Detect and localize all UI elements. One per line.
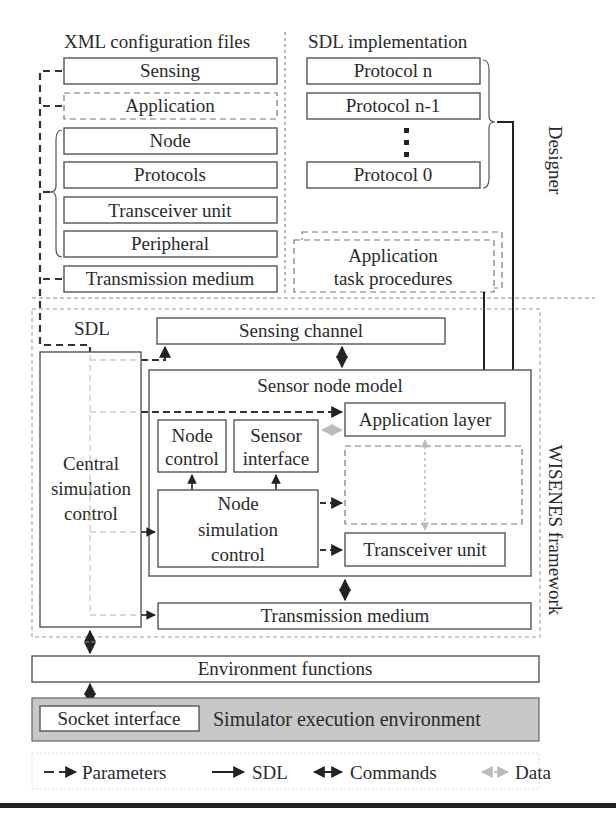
sdl-section-title: SDL implementation	[308, 31, 468, 52]
svg-text:Environment functions: Environment functions	[198, 658, 373, 679]
sensing-channel: Sensing channel	[157, 318, 445, 344]
svg-text:Node: Node	[149, 130, 190, 151]
simulator-execution-environment: Socket interface Simulator execution env…	[32, 698, 539, 741]
ellipsis-icon	[404, 128, 409, 157]
brace-icon	[50, 130, 62, 257]
svg-text:Protocol n: Protocol n	[354, 60, 433, 81]
legend: Parameters SDL Commands Data	[32, 753, 551, 789]
svg-text:control: control	[165, 448, 219, 469]
socket-interface: Socket interface	[58, 708, 181, 729]
node-simulation-control: Node simulation control	[158, 490, 318, 567]
svg-text:Transmission medium: Transmission medium	[86, 268, 255, 289]
framework-label: WISENES framework	[545, 445, 566, 616]
svg-text:Sensor: Sensor	[250, 425, 302, 446]
application-task-procedures: Application task procedures	[294, 232, 502, 292]
svg-text:Sensing: Sensing	[140, 60, 201, 81]
sdl-label: SDL	[74, 318, 110, 339]
xml-section-title: XML configuration files	[64, 31, 250, 52]
svg-text:Protocol 0: Protocol 0	[354, 164, 433, 185]
execution-env-label: Simulator execution environment	[213, 708, 481, 730]
svg-text:Transmission medium: Transmission medium	[261, 605, 430, 626]
svg-text:Application: Application	[348, 245, 438, 266]
svg-text:Sensor node model: Sensor node model	[257, 375, 403, 396]
protocol-n: Protocol n	[307, 58, 480, 84]
transceiver-unit: Transceiver unit	[345, 533, 505, 566]
svg-text:SDL: SDL	[252, 762, 288, 783]
svg-text:Protocols: Protocols	[134, 164, 206, 185]
wisenes-architecture-diagram: XML configuration files Sensing Applicat…	[0, 0, 616, 823]
designer-label: Designer	[545, 126, 566, 195]
svg-text:Application layer: Application layer	[359, 409, 492, 430]
svg-text:Transceiver unit: Transceiver unit	[363, 539, 487, 560]
xml-item-peripheral: Peripheral	[64, 231, 277, 257]
svg-text:Parameters: Parameters	[82, 762, 166, 783]
svg-text:Protocol n-1: Protocol n-1	[346, 95, 440, 116]
xml-item-transceiver-unit: Transceiver unit	[64, 197, 277, 223]
svg-text:Sensing channel: Sensing channel	[239, 320, 363, 341]
param-to-sensing	[141, 347, 165, 360]
svg-text:interface: interface	[243, 448, 309, 469]
brace-icon	[483, 60, 495, 188]
node-control: Node control	[158, 420, 226, 472]
svg-text:Application: Application	[125, 95, 215, 116]
svg-text:Transceiver unit: Transceiver unit	[108, 200, 232, 221]
xml-item-node: Node	[64, 128, 277, 154]
transmission-medium: Transmission medium	[158, 603, 531, 629]
svg-text:task procedures: task procedures	[334, 268, 453, 289]
protocol-0: Protocol 0	[307, 162, 480, 188]
xml-item-application: Application	[64, 93, 277, 119]
xml-item-sensing: Sensing	[64, 58, 277, 84]
environment-functions: Environment functions	[32, 656, 539, 682]
protocol-area	[345, 446, 522, 524]
svg-text:Data: Data	[515, 762, 551, 783]
svg-text:control: control	[64, 503, 118, 524]
svg-text:control: control	[211, 544, 265, 565]
svg-text:simulation: simulation	[198, 519, 279, 540]
sensor-interface: Sensor interface	[234, 420, 318, 472]
svg-text:Commands: Commands	[350, 762, 437, 783]
application-layer: Application layer	[345, 403, 505, 436]
svg-text:Central: Central	[63, 453, 119, 474]
xml-item-protocols: Protocols	[64, 162, 277, 188]
svg-text:Peripheral: Peripheral	[131, 233, 209, 254]
protocol-n-minus-1: Protocol n-1	[307, 93, 480, 119]
bottom-rule	[0, 803, 616, 808]
svg-text:simulation: simulation	[51, 478, 132, 499]
svg-text:Node: Node	[217, 493, 258, 514]
xml-item-transmission-medium: Transmission medium	[64, 266, 277, 292]
svg-text:Node: Node	[171, 425, 212, 446]
